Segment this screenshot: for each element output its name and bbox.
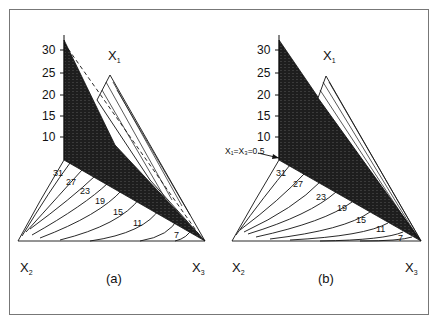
tick-label: 10 <box>257 130 271 144</box>
contour-label: 23 <box>80 186 90 196</box>
contour-label: 31 <box>53 168 63 178</box>
contour-label: 31 <box>276 168 286 178</box>
tick-label: 20 <box>42 88 56 102</box>
contour-label: 11 <box>376 224 385 234</box>
vertex-label-x2: X2 <box>20 260 33 276</box>
contour-label: 23 <box>316 192 326 202</box>
vertex-label-x3: X3 <box>192 260 205 276</box>
annotation-label: X₁=X₃=0.5 <box>225 146 265 156</box>
arrow-head-icon <box>272 154 279 159</box>
contour-label: 11 <box>133 218 142 228</box>
panel-b: 30 25 20 15 10 X₁=X₃=0.5 31 27 23 19 15 … <box>225 35 421 286</box>
tick-label: 15 <box>257 109 271 123</box>
vertex-label-x1: X1 <box>108 48 121 64</box>
tick-label: 20 <box>257 88 271 102</box>
tick-label: 30 <box>257 43 271 57</box>
contour-label: 19 <box>337 203 347 213</box>
contour-label: 7 <box>174 230 179 240</box>
tick-label: 15 <box>42 109 56 123</box>
panel-caption-a: (a) <box>106 271 122 286</box>
contour-label: 15 <box>113 207 123 217</box>
vertex-label-x3: X3 <box>405 260 418 276</box>
panel-a: 30 25 20 15 10 31 27 23 19 15 11 7 X1 X2… <box>18 35 205 286</box>
tick-label: 30 <box>42 43 56 57</box>
ternary-diagram-figure: 30 25 20 15 10 31 27 23 19 15 11 7 X1 X2… <box>0 0 439 327</box>
contour-label: 27 <box>66 177 76 187</box>
contour-label: 15 <box>356 215 366 225</box>
y-axis-a <box>60 35 64 160</box>
tick-label: 25 <box>42 66 56 80</box>
contour-label: 7 <box>398 233 403 243</box>
contour-label: 27 <box>293 179 303 189</box>
contour-label: 19 <box>95 196 105 206</box>
vertex-label-x1: X1 <box>323 48 336 64</box>
vertex-label-x2: X2 <box>232 260 245 276</box>
tick-label: 25 <box>257 66 271 80</box>
y-axis-b <box>275 35 279 160</box>
panel-caption-b: (b) <box>318 271 334 286</box>
tick-label: 10 <box>42 130 56 144</box>
